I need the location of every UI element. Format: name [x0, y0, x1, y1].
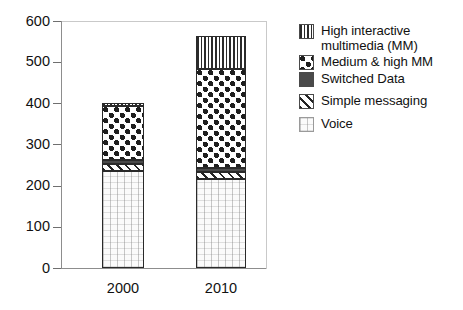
y-axis-label-300: 300 [8, 137, 50, 152]
legend-item-voice: Voice [299, 117, 461, 132]
legend-label-simple-messaging: Simple messaging [321, 94, 427, 109]
bar-2000-segment-voice [102, 171, 144, 268]
y-axis-line [61, 21, 62, 269]
legend-swatch-vertical-stripe-icon [299, 24, 314, 39]
legend-item-simple-messaging: Simple messaging [299, 94, 461, 109]
chart-legend: High interactive multimedia (MM) Medium … [299, 24, 461, 134]
x-axis-line [62, 268, 267, 269]
plot-right-rule [266, 21, 267, 269]
legend-label-voice: Voice [321, 117, 353, 132]
bar-2000-segment-simple-messaging [102, 164, 144, 171]
legend-item-switched-data: Switched Data [299, 72, 461, 87]
bar-2010-segment-high-interactive-mm [196, 36, 246, 69]
bar-2000 [102, 103, 144, 268]
bar-2010 [196, 36, 246, 268]
y-axis-label-0: 0 [8, 261, 50, 276]
x-axis-label-2000: 2000 [88, 281, 158, 296]
stacked-bar-chart: 600 500 400 300 200 100 0 2000 2010 [0, 0, 463, 310]
y-axis-label-200: 200 [8, 178, 50, 193]
legend-label-high-interactive-mm: High interactive multimedia (MM) [321, 24, 461, 53]
bar-2010-segment-voice [196, 179, 246, 268]
bar-2000-segment-medium-high-mm [102, 106, 144, 160]
y-axis-label-500: 500 [8, 54, 50, 69]
y-axis-labels: 600 500 400 300 200 100 0 [0, 0, 50, 310]
legend-swatch-checkerboard-icon [299, 55, 314, 70]
legend-swatch-solid-icon [299, 72, 314, 87]
y-axis-label-400: 400 [8, 96, 50, 111]
plot-top-rule [62, 21, 267, 22]
legend-label-medium-high-mm: Medium & high MM [321, 55, 433, 70]
legend-item-high-interactive-mm: High interactive multimedia (MM) [299, 24, 461, 53]
x-axis-label-2010: 2010 [186, 281, 256, 296]
legend-label-switched-data: Switched Data [321, 72, 405, 87]
legend-swatch-diagonal-hatch-icon [299, 94, 314, 109]
legend-swatch-light-dotted-icon [299, 117, 314, 132]
bar-2010-segment-medium-high-mm [196, 69, 246, 168]
legend-item-medium-high-mm: Medium & high MM [299, 55, 461, 70]
y-axis-label-600: 600 [8, 14, 50, 29]
y-axis-label-100: 100 [8, 219, 50, 234]
bar-2010-segment-simple-messaging [196, 172, 246, 179]
